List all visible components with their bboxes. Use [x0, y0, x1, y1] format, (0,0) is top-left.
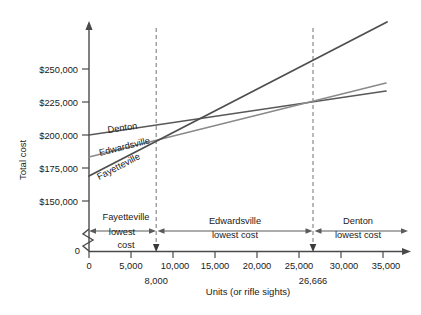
- breakeven-marker-8000: 8,000: [145, 28, 168, 286]
- x-tick-label: 15,000: [201, 261, 229, 271]
- y-axis-origin-label: 0: [75, 246, 80, 256]
- band-arrow-right: [401, 228, 408, 234]
- region-label-line: lowest: [109, 227, 136, 237]
- band-arrow-right: [306, 228, 313, 234]
- region-label-line: cost: [117, 240, 134, 250]
- x-tick-label: 35,000: [372, 261, 400, 271]
- x-axis-title: Units (or rifle sights): [206, 286, 290, 297]
- cost-comparison-chart: $250,000 $225,000 $200,000 $175,000 $150…: [0, 0, 421, 315]
- y-tick-label: $200,000: [39, 131, 78, 141]
- region-band-fayetteville: Fayetteville lowest cost: [89, 212, 156, 250]
- x-axis-tick-labels: 0 5,000 10,000 15,000 20,000 25,000 30,0…: [86, 261, 400, 271]
- x-tick-label: 25,000: [285, 261, 313, 271]
- series-label-denton: Denton: [107, 121, 138, 135]
- band-arrow-left: [158, 228, 165, 234]
- band-arrow-right: [149, 228, 156, 234]
- region-label-line: lowest cost: [335, 230, 381, 240]
- y-axis-ticks: [82, 69, 89, 201]
- region-band-denton: Denton lowest cost: [315, 216, 409, 241]
- x-tick-label: 10,000: [161, 261, 189, 271]
- x-axis: [89, 248, 411, 255]
- x-tick-label: 20,000: [243, 261, 271, 271]
- breakeven-label: 8,000: [145, 276, 168, 286]
- x-tick-label: 5,000: [119, 261, 142, 271]
- region-label-line: Edwardsville: [209, 216, 261, 226]
- y-axis-arrowhead: [85, 21, 92, 30]
- y-tick-label: $225,000: [39, 98, 78, 108]
- x-axis-ticks: [89, 252, 383, 259]
- x-tick-label: 0: [86, 261, 91, 271]
- band-arrow-left: [89, 228, 96, 234]
- region-label-line: Denton: [343, 216, 373, 226]
- region-band-edwardsville: Edwardsville lowest cost: [158, 216, 313, 241]
- band-arrow-left: [315, 228, 322, 234]
- y-axis: [85, 21, 92, 252]
- x-tick-label: 30,000: [330, 261, 358, 271]
- y-axis-title: Total cost: [17, 140, 28, 180]
- region-label-line: Fayetteville: [102, 212, 149, 222]
- breakeven-marker-26666: 26,666: [299, 28, 327, 286]
- y-tick-label: $175,000: [39, 164, 78, 174]
- y-tick-label: $150,000: [39, 197, 78, 207]
- y-axis-tick-labels: $250,000 $225,000 $200,000 $175,000 $150…: [39, 65, 78, 207]
- x-axis-arrowhead: [402, 248, 411, 255]
- series-label-edwardsville: Edwardsville: [98, 135, 151, 157]
- region-label-line: lowest cost: [212, 230, 258, 240]
- axis-break-zigzag: [83, 229, 93, 251]
- y-tick-label: $250,000: [39, 65, 78, 75]
- breakeven-label: 26,666: [299, 276, 327, 286]
